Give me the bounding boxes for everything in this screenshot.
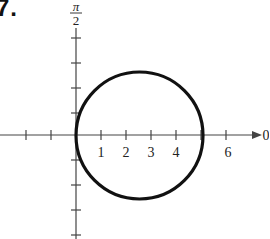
polar-graph: 1 2 3 4 6 0 π 2 (0, 0, 269, 239)
polar-axis-label: 0 (263, 128, 270, 143)
x-tick-label-4: 4 (173, 145, 180, 160)
pi-numerator: π (73, 0, 80, 14)
x-tick-label-3: 3 (148, 145, 155, 160)
x-tick-label-2: 2 (123, 145, 130, 160)
x-tick-label-6: 6 (225, 145, 232, 160)
x-tick-label-1: 1 (98, 145, 105, 160)
pi-denominator: 2 (73, 13, 80, 28)
arrowhead-icon (252, 131, 262, 139)
